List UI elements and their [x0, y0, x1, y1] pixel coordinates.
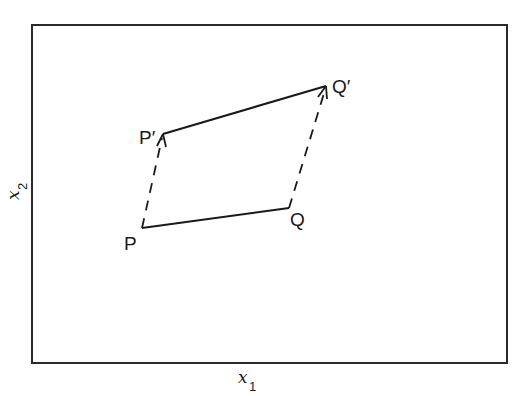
segment-p-prime-q-prime	[163, 86, 326, 134]
segment-pq	[142, 208, 289, 228]
svg-text:1: 1	[249, 379, 256, 394]
arrowhead-icon	[157, 134, 166, 147]
y-axis-label: x 2	[3, 183, 30, 200]
translation-arrow-q	[289, 90, 325, 208]
svg-text:2: 2	[15, 183, 30, 190]
x-axis-label: x 1	[238, 367, 256, 394]
point-label-q: Q	[290, 209, 305, 230]
point-label-p: P	[124, 233, 137, 254]
plot-frame	[32, 25, 507, 363]
diagram-canvas: P Q P′ Q′ x 1 x 2	[0, 0, 517, 396]
translation-arrow-p	[142, 138, 162, 228]
point-label-p-prime: P′	[139, 127, 156, 148]
point-label-q-prime: Q′	[332, 76, 351, 97]
svg-text:x: x	[3, 190, 23, 200]
svg-text:x: x	[238, 367, 248, 387]
